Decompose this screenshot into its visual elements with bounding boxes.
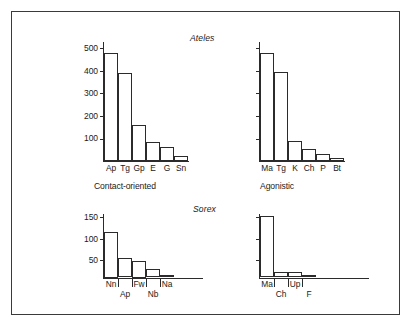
- xtick-label-na: Na: [159, 280, 175, 289]
- xtick-label-g: G: [160, 164, 174, 173]
- bar-k: [288, 141, 302, 161]
- xtick-label-nn: Nn: [103, 280, 119, 289]
- bar-ap: [118, 258, 132, 278]
- x-axis: [259, 278, 369, 279]
- bar-nb: [146, 269, 160, 278]
- xtick-label-ma: Ma: [259, 164, 275, 173]
- xtick-label-ch: Ch: [273, 290, 289, 299]
- panel-sorex-agonistic: Ma Up Ch F: [242, 201, 392, 311]
- ytick-500: [100, 48, 104, 49]
- bar-ch: [302, 149, 316, 161]
- plot-area-sorex-agonistic: [242, 201, 392, 311]
- xtick-label-ap: Ap: [104, 164, 118, 173]
- bar-gp: [132, 125, 146, 161]
- xtick-label-bt: Bt: [329, 164, 345, 173]
- xtick-label-ap: Ap: [117, 290, 133, 299]
- xtick-label-gp: Gp: [132, 164, 146, 173]
- ytick-150: [100, 217, 104, 218]
- bar-tg: [118, 73, 132, 161]
- row-title-sorex: Sorex: [193, 204, 216, 214]
- bar-p: [316, 154, 330, 162]
- bar-nn: [104, 232, 118, 278]
- panel-ateles-contact-oriented: 500 400 300 200 100 Ap Tg Gp E G Sn: [72, 23, 212, 193]
- bar-up: [288, 272, 302, 278]
- panel-sorex-contact-oriented: 150 100 50 Nn Fw Na Ap Nb: [72, 201, 212, 311]
- row-title-ateles: Ateles: [190, 33, 215, 43]
- bar-na: [160, 275, 174, 278]
- xtick-label-e: E: [146, 164, 160, 173]
- bar-ap: [104, 53, 118, 161]
- caption-contact-oriented: Contact-oriented: [94, 181, 156, 191]
- xtick-label-f: F: [301, 290, 317, 299]
- bar-ma: [260, 53, 274, 161]
- bar-ma: [260, 216, 274, 278]
- bar-fw: [132, 261, 146, 278]
- caption-agonistic: Agonistic: [260, 181, 294, 191]
- bar-e: [146, 142, 160, 161]
- bar-ch: [274, 272, 288, 278]
- panel-ateles-agonistic: Ma Tg K Ch P Bt Agonistic: [242, 23, 382, 193]
- x-axis: [259, 161, 345, 162]
- xtick-label-tg: Tg: [274, 164, 288, 173]
- xtick-label-sn: Sn: [173, 164, 189, 173]
- xtick-label-k: K: [288, 164, 302, 173]
- xtick-label-ch: Ch: [301, 164, 317, 173]
- xtick-label-ma: Ma: [259, 280, 275, 289]
- figure-frame: 500 400 300 200 100 Ap Tg Gp E G Sn: [11, 11, 400, 315]
- bar-f: [302, 275, 316, 278]
- ytick-500: [256, 48, 260, 49]
- xtick-label-nb: Nb: [145, 290, 161, 299]
- bar-g: [160, 147, 174, 161]
- bar-sn: [174, 156, 188, 161]
- xtick-label-fw: Fw: [131, 280, 147, 289]
- xtick-label-tg: Tg: [118, 164, 132, 173]
- bar-bt: [330, 158, 344, 161]
- xtick-label-up: Up: [287, 280, 303, 289]
- plot-area-sorex-contact: [72, 201, 212, 311]
- bar-tg: [274, 72, 288, 161]
- xtick-label-p: P: [316, 164, 330, 173]
- x-axis: [103, 161, 189, 162]
